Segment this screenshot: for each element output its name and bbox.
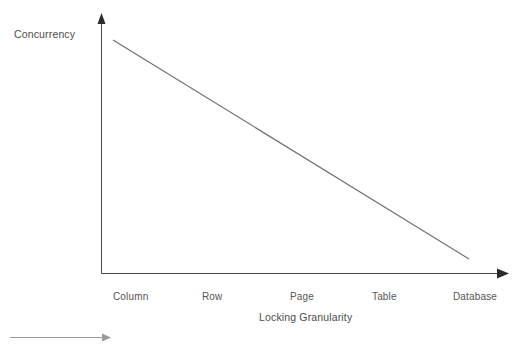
- x-tick-label-database: Database: [453, 291, 497, 302]
- x-tick-label-column: Column: [113, 291, 148, 302]
- chart-canvas: Concurrency Locking Granularity Column R…: [0, 0, 524, 345]
- data-series-line: [113, 40, 469, 259]
- y-axis-title: Concurrency: [14, 28, 75, 40]
- y-axis-arrow-up-icon: [98, 13, 106, 24]
- x-axis-arrow-right-icon: [497, 269, 509, 279]
- x-tick-label-table: Table: [372, 291, 397, 302]
- chart-plot-area: [0, 0, 524, 345]
- direction-arrow-icon: [10, 334, 111, 342]
- x-tick-label-page: Page: [290, 291, 314, 302]
- x-tick-label-row: Row: [202, 291, 222, 302]
- x-axis-title: Locking Granularity: [259, 311, 352, 323]
